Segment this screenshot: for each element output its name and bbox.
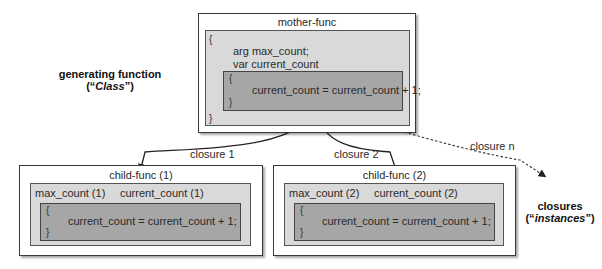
child-func-2-body: max_count (2) current_count (2) { curren… bbox=[284, 183, 504, 246]
child-func-1-box: child-func (1) max_count (1) current_cou… bbox=[19, 165, 263, 256]
child2-close-brace: } bbox=[300, 227, 303, 238]
child-func-2-box: child-func (2) max_count (2) current_cou… bbox=[273, 165, 516, 256]
child2-max-count: max_count (2) bbox=[289, 187, 359, 199]
child-func-2-title: child-func (2) bbox=[274, 169, 515, 181]
child1-inner-block: { current_count = current_count + 1; } bbox=[40, 203, 241, 241]
inner-code: current_count = current_count + 1; bbox=[252, 84, 421, 96]
inner-close-brace: } bbox=[229, 97, 232, 108]
closures-label: closures (“instances”) bbox=[515, 200, 602, 224]
mother-func-box: mother-func { arg max_count; var current… bbox=[198, 13, 416, 133]
child2-open-brace: { bbox=[300, 205, 303, 216]
child2-current-count: current_count (2) bbox=[374, 187, 458, 199]
close-brace: } bbox=[209, 113, 212, 124]
mother-func-title: mother-func bbox=[199, 16, 415, 28]
child1-code: current_count = current_count + 1; bbox=[68, 215, 237, 227]
closuren-label: closure n bbox=[470, 140, 515, 152]
child1-open-brace: { bbox=[46, 205, 49, 216]
child2-inner-block: { current_count = current_count + 1; } bbox=[294, 203, 495, 241]
arg-max-count: arg max_count; bbox=[233, 45, 309, 57]
child2-code: current_count = current_count + 1; bbox=[322, 215, 491, 227]
child1-current-count: current_count (1) bbox=[120, 187, 204, 199]
child1-max-count: max_count (1) bbox=[35, 187, 105, 199]
generating-function-label: generating function (“Class”) bbox=[30, 68, 190, 92]
open-brace: { bbox=[209, 34, 212, 45]
closure1-label: closure 1 bbox=[190, 148, 235, 160]
inner-open-brace: { bbox=[229, 73, 232, 84]
mother-func-body: { arg max_count; var current_count { cur… bbox=[205, 30, 410, 126]
child-func-1-title: child-func (1) bbox=[20, 169, 262, 181]
closure2-label: closure 2 bbox=[334, 148, 379, 160]
mother-inner-block: { current_count = current_count + 1; } bbox=[223, 71, 403, 111]
child-func-1-body: max_count (1) current_count (1) { curren… bbox=[30, 183, 251, 246]
child1-close-brace: } bbox=[46, 227, 49, 238]
var-current-count: var current_count bbox=[233, 58, 319, 70]
